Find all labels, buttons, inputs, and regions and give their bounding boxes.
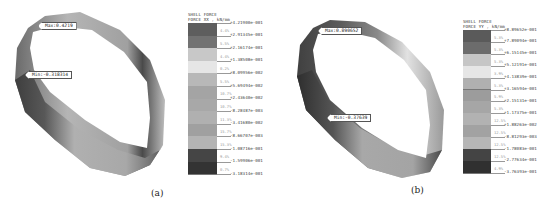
legend-tick xyxy=(217,36,231,37)
legend-percent: 5.3% xyxy=(494,59,503,64)
legend-percent: 0.2% xyxy=(220,66,229,71)
legend-tick xyxy=(217,23,231,24)
legend-swatch xyxy=(463,161,491,174)
legend-value: +2.16174e-001 xyxy=(230,45,263,50)
legend-value: +6.15145e-001 xyxy=(504,50,537,55)
figure-caption: (b) xyxy=(411,185,424,195)
legend-swatch xyxy=(188,86,217,100)
legend-tick xyxy=(491,137,505,138)
legend-scale: 5.3%5.3%5.3%3.9%5.3%5.9%5.3%12.5%12.5%12… xyxy=(463,30,547,174)
legend-percent: 5.3% xyxy=(494,47,503,52)
legend-value: -1.59906e-001 xyxy=(230,158,263,163)
legend-tick xyxy=(491,161,505,162)
legend-value: -8.28487e-003 xyxy=(230,108,263,113)
legend-swatch xyxy=(188,61,217,75)
legend-tick xyxy=(491,101,505,102)
legend-tick xyxy=(491,125,505,126)
legend-tick xyxy=(217,86,231,87)
legend-percent: 4.4% xyxy=(220,28,229,33)
legend-value: +8.09956e-002 xyxy=(230,70,263,75)
legend-swatch xyxy=(188,162,217,176)
legend-tick xyxy=(491,149,505,150)
legend-value: +1.17375e-001 xyxy=(504,110,537,115)
legend-value: +1.38508e-001 xyxy=(230,57,263,62)
legend-value: +4.13839e-001 xyxy=(504,74,537,79)
legend-swatch xyxy=(188,36,217,50)
legend-tick xyxy=(217,149,231,150)
legend-scale: 4.4%5.5%4.4%0.2%5.5%10.7%10.7%11.3%15.7%… xyxy=(188,23,273,175)
legend-value: +7.89094e-001 xyxy=(504,38,537,43)
legend-percent: 3.9% xyxy=(494,71,503,76)
legend-tick xyxy=(217,174,231,175)
legend-value: -8.66707e-003 xyxy=(230,133,263,138)
legend-value: -1.78083e-001 xyxy=(504,146,537,151)
legend-tick xyxy=(491,54,505,55)
legend-value: +2.91345e-001 xyxy=(230,32,263,37)
legend-tick xyxy=(491,90,505,91)
legend-value: -3.18314e-001 xyxy=(230,171,263,176)
legend-percent: 0.7% xyxy=(220,167,229,172)
legend-value: +5.12191e-001 xyxy=(504,62,537,67)
legend-value: -8.81293e-003 xyxy=(504,134,537,139)
legend-swatch xyxy=(188,23,217,37)
legend-tick xyxy=(217,73,231,74)
legend-value: -3.76393e-001 xyxy=(504,169,537,174)
figure-panel-b: Max:0.890652 Min:-0.37639 SHELL FORCE FO… xyxy=(280,0,547,207)
legend-value: +2.15131e-001 xyxy=(504,98,537,103)
legend-percent: 5.9% xyxy=(494,94,503,99)
legend-value: +3.16594e-001 xyxy=(504,86,537,91)
legend-value: -3.41680e-002 xyxy=(230,120,263,125)
figure-panel-a: Max:0.4219 Min:-0.318314 SHELL FORCE FOR… xyxy=(0,0,280,207)
legend-swatch xyxy=(188,124,217,138)
max-value-tag: Max:0.890652 xyxy=(318,27,362,35)
legend-percent: 5.5% xyxy=(220,41,229,46)
legend-tick xyxy=(491,42,505,43)
legend-swatch xyxy=(188,99,217,113)
legend-value: -2.77634e-001 xyxy=(504,157,537,162)
legend-percent: 9.4% xyxy=(220,154,229,159)
max-value-tag: Max:0.4219 xyxy=(38,22,77,30)
min-value-tag: Min:-0.318314 xyxy=(25,71,72,79)
legend-percent: 5.3% xyxy=(494,106,503,111)
legend-swatch xyxy=(188,111,217,125)
legend-tick xyxy=(217,162,231,163)
legend-value: +1.88263e-002 xyxy=(504,122,537,127)
legend-tick xyxy=(491,66,505,67)
legend-swatch xyxy=(188,48,217,62)
legend-value: +8.89652e-001 xyxy=(504,27,537,32)
color-legend-a: SHELL FORCE FORCE XX , kN/mm 4.4%5.5%4.4… xyxy=(188,12,273,175)
legend-tick xyxy=(217,136,231,137)
legend-tick xyxy=(217,48,231,49)
legend-value: -1.08716e-001 xyxy=(230,146,263,151)
legend-tick xyxy=(217,111,231,112)
legend-tick xyxy=(217,124,231,125)
legend-tick xyxy=(217,99,231,100)
legend-percent: 5.3% xyxy=(494,83,503,88)
color-legend-b: SHELL FORCE FORCE YY , kN/mm 5.3%5.3%5.3… xyxy=(463,19,547,174)
legend-value: +2.43640e-002 xyxy=(230,95,263,100)
legend-percent: 4.4% xyxy=(220,54,229,59)
legend-tick xyxy=(491,78,505,79)
legend-swatch xyxy=(188,149,217,163)
legend-value: +5.69494e-002 xyxy=(230,83,263,88)
min-value-tag: Min:-0.37639 xyxy=(327,114,371,122)
shell-ring-model-b xyxy=(280,0,460,190)
legend-swatch xyxy=(188,136,217,150)
legend-percent: 4.9% xyxy=(494,166,503,171)
shell-ring-model-a xyxy=(0,0,180,190)
legend-percent: 5.5% xyxy=(220,79,229,84)
legend-tick xyxy=(491,30,505,31)
legend-swatch xyxy=(188,73,217,87)
legend-tick xyxy=(217,61,231,62)
legend-tick xyxy=(491,113,505,114)
figure-caption: (a) xyxy=(151,188,163,198)
legend-value: +4.21900e-001 xyxy=(230,20,263,25)
legend-tick xyxy=(491,173,505,174)
legend-percent: 5.3% xyxy=(494,35,503,40)
